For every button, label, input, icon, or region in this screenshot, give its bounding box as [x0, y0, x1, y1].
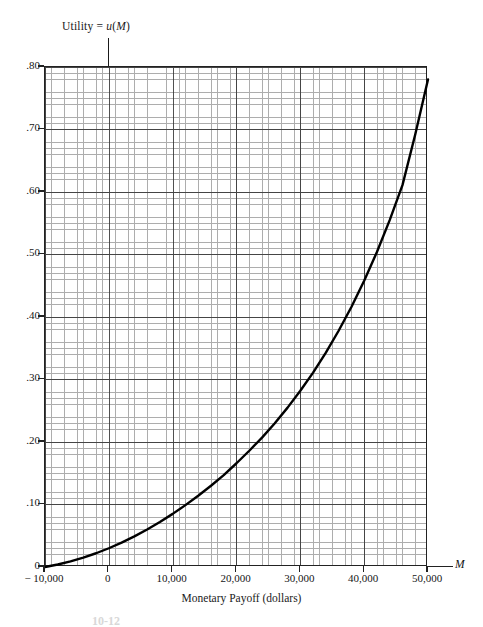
- utility-function-figure: Utility = u(M) M 0.10.20.30.40.50.60.70.…: [0, 0, 483, 627]
- x-axis-tick-labels: − 10,000010,00020,00030,00040,00050,000: [0, 0, 483, 627]
- x-tick-mark: [235, 566, 236, 572]
- x-tick-mark: [43, 566, 44, 572]
- figure-caption: 10-12: [92, 614, 120, 627]
- x-tick-label: 0: [105, 572, 111, 584]
- x-tick-label: 50,000: [412, 572, 442, 584]
- x-tick-label: 30,000: [284, 572, 314, 584]
- x-tick-mark: [363, 566, 364, 572]
- x-tick-label: 40,000: [348, 572, 378, 584]
- x-tick-mark: [426, 566, 427, 572]
- x-axis-title: Monetary Payoff (dollars): [0, 592, 483, 604]
- x-tick-label: 10,000: [157, 572, 187, 584]
- x-tick-mark: [107, 566, 108, 572]
- x-tick-label: − 10,000: [24, 572, 63, 584]
- x-tick-mark: [299, 566, 300, 572]
- x-tick-label: 20,000: [220, 572, 250, 584]
- x-tick-mark: [171, 566, 172, 572]
